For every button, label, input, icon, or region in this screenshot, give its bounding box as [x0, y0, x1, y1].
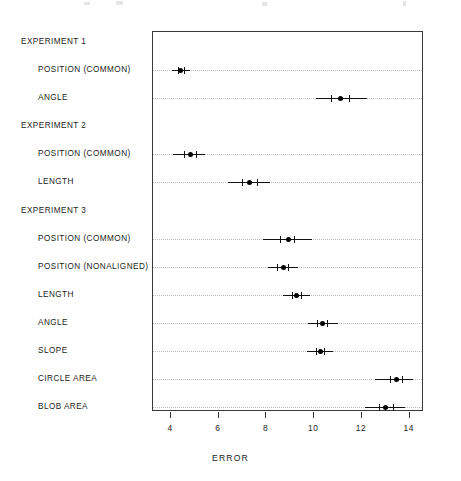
gridline: [153, 351, 422, 353]
inner-interval-cap: [393, 404, 394, 411]
inner-interval-cap: [316, 348, 317, 355]
x-tick: [170, 412, 171, 418]
inner-interval-cap: [301, 292, 302, 299]
x-tick-label: 6: [206, 423, 230, 433]
inner-interval-cap: [257, 179, 258, 186]
x-tick-label: 14: [397, 423, 421, 433]
inner-interval-cap: [349, 95, 350, 102]
data-point: [281, 265, 286, 270]
row-label: CIRCLE AREA: [38, 375, 97, 383]
x-tick: [265, 412, 266, 418]
inner-interval-cap: [402, 376, 403, 383]
inner-interval-cap: [331, 95, 332, 102]
x-tick: [313, 412, 314, 418]
gridline: [153, 98, 422, 100]
row-label: ANGLE: [38, 319, 68, 327]
inner-interval-cap: [288, 264, 289, 271]
scan-speck: [403, 1, 406, 6]
inner-interval-cap: [292, 292, 293, 299]
row-label: BLOB AREA: [38, 403, 88, 411]
x-axis-title: ERROR: [0, 453, 461, 463]
inner-interval-cap: [277, 264, 278, 271]
row-label: POSITION (NONALIGNED): [38, 263, 148, 271]
data-point: [294, 293, 299, 298]
inner-interval-cap: [242, 179, 243, 186]
inner-interval-cap: [184, 151, 185, 158]
inner-interval-cap: [184, 67, 185, 74]
gridline: [153, 70, 422, 72]
group-label-1: EXPERIMENT 1: [21, 38, 86, 46]
x-tick-label: 12: [349, 423, 373, 433]
row-label: LENGTH: [38, 291, 74, 299]
inner-interval-cap: [379, 404, 380, 411]
inner-interval-cap: [317, 320, 318, 327]
inner-interval-cap: [196, 151, 197, 158]
scan-speck: [84, 2, 90, 5]
inner-interval-cap: [327, 320, 328, 327]
gridline: [153, 182, 422, 184]
row-label: POSITION (COMMON): [38, 66, 131, 74]
group-label-2: EXPERIMENT 2: [21, 122, 86, 130]
x-tick-label: 4: [158, 423, 182, 433]
error-chart: EXPERIMENT 1POSITION (COMMON)ANGLEEXPERI…: [0, 0, 461, 481]
inner-interval-cap: [280, 236, 281, 243]
row-label: POSITION (COMMON): [38, 235, 131, 243]
row-label: POSITION (COMMON): [38, 150, 131, 158]
inner-interval-cap: [324, 348, 325, 355]
x-tick: [409, 412, 410, 418]
x-tick-label: 8: [253, 423, 277, 433]
row-label: LENGTH: [38, 178, 74, 186]
scan-speck: [262, 2, 267, 6]
row-label: SLOPE: [38, 347, 68, 355]
inner-interval-cap: [390, 376, 391, 383]
plot-area: [152, 31, 423, 411]
x-tick: [218, 412, 219, 418]
x-tick-label: 10: [301, 423, 325, 433]
inner-interval-cap: [294, 236, 295, 243]
data-point: [286, 237, 291, 242]
row-label: ANGLE: [38, 94, 68, 102]
gridline: [153, 323, 422, 325]
scan-speck: [116, 1, 123, 5]
data-point: [318, 349, 323, 354]
group-label-3: EXPERIMENT 3: [21, 207, 86, 215]
x-tick: [361, 412, 362, 418]
